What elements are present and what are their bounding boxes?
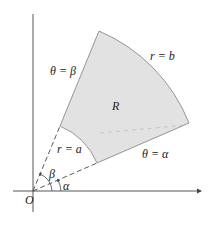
angle-alpha-arc [58,180,61,191]
upper-ray-label: θ = β [50,64,76,78]
angle-beta-label: β [48,167,55,181]
outer-arc-label: r = b [150,49,175,63]
inner-arc-label: r = a [57,142,82,156]
region-label: R [111,99,120,113]
polar-region-diagram: O R r = b r = a θ = β θ = α β α [0,0,209,225]
lower-ray-label: θ = α [142,147,169,161]
origin-label: O [25,193,34,207]
angle-alpha-label: α [63,179,70,193]
